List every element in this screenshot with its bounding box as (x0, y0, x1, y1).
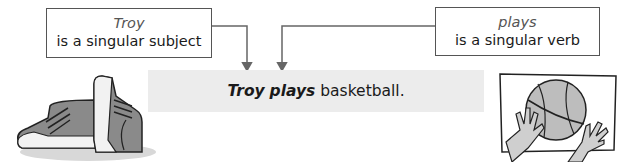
sentence-subject: Troy (227, 82, 264, 100)
example-sentence: Troy plays basketball. (148, 70, 484, 112)
subject-description: is a singular subject (57, 33, 202, 49)
verb-label-box: plays is a singular verb (435, 7, 600, 56)
verb-term: plays (436, 13, 599, 31)
basketball-hands-icon (498, 72, 620, 162)
verb-description: is a singular verb (455, 32, 580, 48)
subject-term: Troy (47, 14, 211, 32)
sneakers-icon (8, 70, 158, 165)
subject-label-box: Troy is a singular subject (46, 8, 212, 58)
sentence-verb: plays (270, 82, 316, 100)
sentence-rest: basketball. (320, 82, 404, 100)
